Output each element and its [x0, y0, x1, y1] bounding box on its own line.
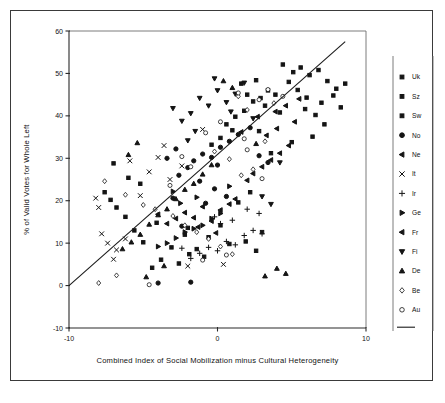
data-point — [264, 133, 268, 138]
data-point — [212, 77, 217, 81]
data-point — [250, 228, 255, 233]
data-point — [228, 242, 231, 245]
data-point — [274, 126, 278, 131]
data-point — [179, 201, 183, 206]
legend-label-be: Be — [412, 287, 420, 294]
data-point — [218, 244, 222, 249]
data-point — [192, 159, 196, 163]
data-point — [218, 145, 222, 149]
y-tick-label: -10 — [53, 325, 63, 332]
legend-item-fi[interactable]: Fi — [399, 248, 418, 255]
data-point — [156, 244, 160, 249]
y-axis-title: % of Valid Votes for Whole Left — [22, 124, 31, 235]
data-point — [174, 236, 178, 241]
legend-item-ge[interactable]: Ge — [400, 209, 421, 216]
data-point — [227, 202, 231, 207]
legend-item-de[interactable]: De — [399, 267, 420, 274]
data-point — [128, 158, 133, 163]
data-point — [213, 231, 217, 236]
data-point — [185, 139, 190, 143]
data-point — [177, 173, 181, 177]
legend-marker-small-square — [400, 114, 404, 118]
legend-item-ne[interactable]: Ne — [399, 151, 421, 158]
data-point — [147, 222, 152, 226]
data-point — [260, 177, 264, 181]
axes-spines — [69, 31, 366, 328]
legend-item-be[interactable]: Be — [400, 287, 421, 294]
data-point — [277, 151, 281, 156]
legend-label-de: De — [412, 267, 421, 274]
legend-marker-down-triangle — [399, 250, 404, 255]
data-point — [201, 223, 205, 228]
data-point — [296, 88, 299, 91]
data-point — [215, 163, 219, 167]
data-point — [215, 89, 220, 93]
data-point — [162, 264, 167, 268]
data-point — [191, 181, 196, 185]
data-point — [260, 164, 264, 169]
data-point — [297, 97, 301, 102]
legend-item-ir[interactable]: Ir — [399, 190, 417, 197]
data-point — [197, 96, 202, 100]
data-point — [177, 262, 180, 265]
legend-item-uk[interactable]: Uk — [400, 73, 421, 80]
data-point — [112, 162, 115, 165]
data-point — [114, 248, 119, 253]
series-no — [156, 126, 270, 286]
legend-item-it[interactable]: It — [399, 170, 415, 177]
data-point — [242, 233, 247, 238]
legend-label-no: No — [412, 132, 421, 139]
data-point — [257, 98, 261, 102]
legend-label-it: It — [412, 170, 416, 177]
legend-item-sw[interactable]: Sw — [400, 112, 421, 119]
data-point — [180, 155, 184, 159]
data-point — [224, 253, 228, 257]
legend-marker-right-triangle — [400, 210, 405, 215]
data-point — [246, 93, 249, 96]
data-point — [299, 66, 302, 69]
data-point — [287, 80, 290, 83]
data-point — [105, 241, 110, 246]
data-point — [189, 280, 193, 284]
legend-item-au[interactable]: Au — [400, 306, 421, 313]
legend-label-fi: Fi — [412, 248, 418, 255]
x-tick-label: 0 — [216, 335, 220, 342]
figure-frame: -100102030405060-10010Combined Index of … — [10, 10, 433, 381]
data-point — [193, 129, 198, 133]
data-point — [191, 215, 195, 220]
data-point — [114, 273, 118, 278]
data-point — [233, 242, 238, 247]
data-point — [168, 183, 172, 187]
data-point — [257, 129, 260, 132]
legend-item-fr[interactable]: Fr — [399, 229, 419, 236]
data-point — [147, 283, 151, 287]
data-point — [182, 187, 187, 191]
legend-item-no[interactable]: No — [400, 132, 421, 139]
data-point — [275, 266, 280, 270]
x-tick-label: 10 — [362, 335, 370, 342]
data-point — [303, 107, 306, 110]
legend-item-sz[interactable]: Sz — [400, 93, 420, 100]
y-tick-label: 60 — [55, 28, 63, 35]
data-point — [139, 182, 142, 185]
data-point — [123, 192, 127, 197]
data-point — [168, 177, 173, 182]
data-point — [254, 141, 259, 145]
data-point — [263, 274, 268, 278]
data-point — [200, 204, 204, 209]
legend-label-sw: Sw — [412, 112, 421, 119]
legend-marker-small-square — [400, 75, 404, 79]
data-point — [323, 123, 326, 126]
data-point — [142, 241, 145, 244]
data-point — [179, 246, 184, 251]
data-point — [185, 264, 190, 269]
data-point — [281, 63, 284, 66]
data-point — [269, 202, 274, 206]
data-point — [195, 230, 199, 235]
data-point — [93, 196, 98, 201]
data-point — [221, 79, 226, 83]
data-point — [103, 179, 107, 184]
data-point — [159, 258, 162, 261]
data-point — [305, 96, 308, 99]
y-tick-label: 0 — [59, 282, 63, 289]
